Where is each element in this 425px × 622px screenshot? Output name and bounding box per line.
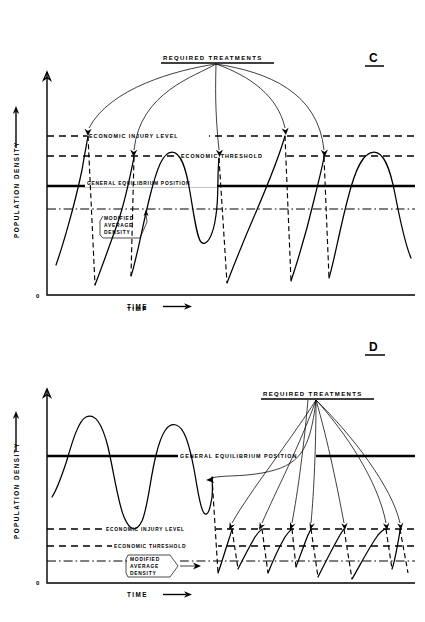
panel-c: POPULATION DENSITY 0 ECONOMIC INJURY LEV… (0, 0, 425, 311)
panel-c-economic-injury-level-label: ECONOMIC INJURY LEVEL (89, 133, 178, 139)
panel-d-treatment-arrow-3 (292, 400, 308, 523)
panel-c-crash-3 (219, 158, 227, 283)
panel-d-crash-2 (232, 529, 238, 569)
figure-population-density: POPULATION DENSITY 0 ECONOMIC INJURY LEV… (0, 0, 425, 622)
panel-c-mad-leader (146, 214, 147, 222)
panel-c-modified-average-density-label-l2: AVERAGE (104, 223, 133, 228)
panel-d-y-axis-title: POPULATION DENSITY (13, 442, 20, 539)
panel-d-chart: POPULATION DENSITY 0 GENERAL EQUILIBRIUM… (0, 311, 425, 622)
panel-d-axes (47, 389, 415, 583)
panel-c-chart: POPULATION DENSITY 0 ECONOMIC INJURY LEV… (0, 0, 425, 311)
panel-d-treatment-arrow-7 (316, 400, 400, 523)
panel-d-crash-7 (386, 529, 392, 569)
panel-d-crash-6 (344, 529, 352, 579)
panel-d-treatment-arrowhead-hook-icon (206, 477, 214, 483)
panel-c-crash-5 (324, 157, 329, 278)
panel-c-y-axis-title: POPULATION DENSITY (13, 141, 20, 238)
panel-d-saw-up-1 (218, 529, 232, 573)
panel-d-economic-injury-level-label: ECONOMIC INJURY LEVEL (106, 527, 185, 532)
panel-c-letter: C (369, 51, 379, 65)
panel-c-crash-1 (88, 136, 95, 285)
panel-d-x-axis-title-text: TIME (127, 591, 148, 598)
panel-c-curve-seg-6 (329, 152, 411, 278)
panel-d-letter: D (369, 340, 379, 354)
panel-d-modified-average-density-label-l2: AVERAGE (130, 564, 159, 569)
panel-d-x-axis-title-group: TIME (0, 584, 425, 606)
panel-d-saw-up-2 (238, 529, 262, 569)
panel-d-saw-up-5 (318, 529, 344, 577)
panel-c-x-axis-title-text: TIME (127, 303, 148, 310)
panel-d-treatment-arrow-2 (262, 400, 316, 523)
panel-c-general-equilibrium-position-label: GENERAL EQUILIBRIUM POSITION (87, 181, 190, 186)
panel-c-modified-average-density-label-l3: DENSITY (104, 230, 130, 235)
panel-d-saw-up-7 (392, 529, 400, 569)
panel-d-crash-3 (262, 529, 268, 573)
panel-d-crash-5 (311, 529, 318, 577)
panel-d-modified-average-density-label-l3: DENSITY (130, 571, 156, 576)
panel-d: POPULATION DENSITY 0 GENERAL EQUILIBRIUM… (0, 311, 425, 622)
panel-d-crash-8 (400, 529, 408, 573)
panel-c-treatment-arrowhead-4-icon (282, 127, 289, 135)
panel-d-treatment-arrow-6 (316, 400, 386, 523)
panel-d-modified-average-density-label-l1: MODIFIED (130, 557, 160, 562)
panel-c-treatment-arrow-5 (216, 64, 324, 150)
panel-c-treatment-arrow-3 (216, 64, 219, 150)
panel-d-economic-threshold-label: ECONOMIC THRESHOLD (114, 544, 186, 549)
panel-d-required-treatments-label: REQUIRED TREATMENTS (263, 391, 363, 397)
panel-c-required-treatments-label: REQUIRED TREATMENTS (163, 55, 263, 61)
panel-d-treatment-arrow-5 (316, 400, 344, 523)
panel-c-treatment-arrow-4 (216, 64, 285, 128)
panel-d-saw-up-6 (352, 529, 386, 579)
panel-c-curve-seg-2 (95, 157, 134, 285)
panel-c-curve-seg-5 (291, 157, 324, 281)
panel-c-curve-seg-3 (131, 152, 219, 276)
panel-c-economic-threshold-label: ECONOMIC THRESHOLD (181, 153, 263, 159)
panel-d-treatment-arrow-1 (232, 400, 316, 523)
panel-d-saw-up-3 (268, 529, 292, 573)
panel-d-natural-cycles (52, 416, 212, 529)
